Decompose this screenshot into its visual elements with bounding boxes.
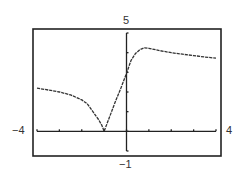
ymin-label: −1 bbox=[119, 159, 132, 170]
graph-window bbox=[0, 0, 235, 170]
ymax-label: 5 bbox=[123, 15, 129, 26]
xmin-label: −4 bbox=[12, 125, 25, 136]
xmax-label: 4 bbox=[226, 125, 232, 136]
